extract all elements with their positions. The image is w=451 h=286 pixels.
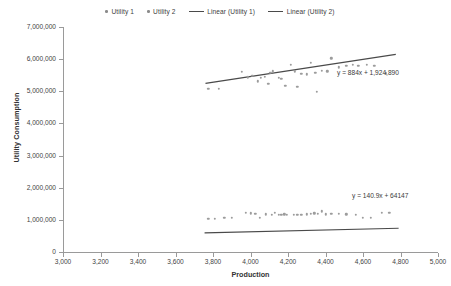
trendline-equation-utility-2: y = 140.9x + 64147 (352, 192, 408, 199)
trendline-2 (205, 228, 399, 233)
trendline-equation-utility-1: y = 884x + 1,924,890 (337, 69, 399, 76)
